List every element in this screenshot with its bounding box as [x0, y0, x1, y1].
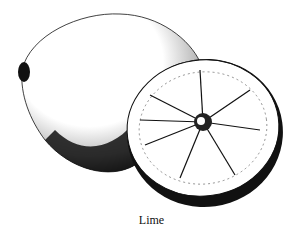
lime-illustration — [0, 0, 303, 210]
figure-caption: Lime — [0, 213, 303, 228]
